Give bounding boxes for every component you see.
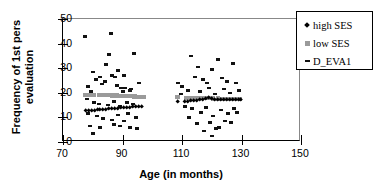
- x-axis-title: Age (in months): [62, 168, 300, 180]
- scatter-chart: Frequency of 1st pers evaluation 0102030…: [0, 0, 376, 194]
- data-point-d-eva1: [211, 115, 215, 118]
- data-point-d-eva1: [119, 87, 123, 90]
- data-point-d-eva1: [104, 63, 108, 66]
- data-point-d-eva1: [219, 109, 223, 112]
- data-point-d-eva1: [210, 135, 214, 138]
- data-point-d-eva1: [116, 114, 120, 117]
- data-point-d-eva1: [132, 52, 136, 55]
- data-point-d-eva1: [109, 32, 113, 35]
- y-axis-title-line1: Frequency of 1st pers: [10, 20, 22, 134]
- data-point-d-eva1: [94, 78, 98, 81]
- y-axis-tick-label: 30: [46, 62, 72, 72]
- y-axis-tick-label: 0: [46, 136, 72, 146]
- diamond-marker-icon: [301, 23, 313, 27]
- data-point-d-eva1: [118, 125, 122, 128]
- data-point-d-eva1: [186, 89, 190, 92]
- data-point-d-eva1: [125, 101, 129, 104]
- data-point-high-ses: [239, 98, 244, 103]
- data-point-d-eva1: [88, 125, 92, 128]
- plot-area: [62, 18, 300, 141]
- legend: high SES low SES D_EVA1: [296, 11, 373, 70]
- x-axis-tick: [242, 135, 243, 145]
- y-axis-tick-label: 40: [46, 38, 72, 48]
- data-point-d-eva1: [222, 88, 226, 91]
- y-axis-tick-label: 10: [46, 111, 72, 121]
- x-axis-tick: [301, 135, 302, 145]
- data-point-d-eva1: [220, 77, 224, 80]
- data-point-d-eva1: [98, 76, 102, 79]
- x-axis-tick-label: 150: [285, 148, 315, 158]
- data-point-d-eva1: [97, 103, 101, 106]
- data-point-d-eva1: [86, 85, 90, 88]
- data-point-d-eva1: [137, 82, 141, 85]
- data-point-d-eva1: [193, 76, 197, 79]
- data-point-d-eva1: [210, 68, 214, 71]
- data-point-d-eva1: [92, 101, 96, 104]
- dash-marker-icon: [301, 60, 313, 62]
- data-point-d-eva1: [128, 126, 132, 129]
- data-point-d-eva1: [228, 92, 232, 95]
- data-point-d-eva1: [85, 98, 89, 101]
- square-marker-icon: [301, 41, 313, 46]
- y-axis-title-line2: evaluation: [23, 50, 35, 104]
- data-point-d-eva1: [100, 83, 104, 86]
- data-point-d-eva1: [110, 119, 114, 122]
- data-point-d-eva1: [134, 116, 138, 119]
- legend-item-d-eva1: D_EVA1: [301, 52, 369, 70]
- x-axis-tick-label: 90: [107, 148, 137, 158]
- data-point-d-eva1: [189, 55, 193, 58]
- y-axis-title: Frequency of 1st pers evaluation: [10, 2, 36, 152]
- data-point-d-eva1: [204, 106, 208, 109]
- data-point-d-eva1: [135, 127, 139, 130]
- legend-item-low-ses: low SES: [301, 34, 369, 52]
- legend-label-low-ses: low SES: [313, 38, 349, 49]
- data-point-d-eva1: [217, 126, 221, 129]
- x-axis-tick: [123, 135, 124, 145]
- x-axis-tick-label: 130: [226, 148, 256, 158]
- legend-label-d-eva1: D_EVA1: [313, 56, 351, 67]
- data-point-d-eva1: [101, 117, 105, 120]
- y-axis-tick-label: 20: [46, 87, 72, 97]
- data-point-d-eva1: [199, 111, 203, 114]
- legend-label-high-ses: high SES: [313, 20, 352, 31]
- data-point-d-eva1: [198, 90, 202, 93]
- data-point-d-eva1: [113, 76, 117, 79]
- data-point-d-eva1: [187, 116, 191, 119]
- legend-item-high-ses: high SES: [301, 16, 369, 34]
- data-point-d-eva1: [231, 62, 235, 65]
- data-point-d-eva1: [213, 93, 217, 96]
- data-point-d-eva1: [91, 132, 95, 135]
- data-point-d-eva1: [229, 121, 233, 124]
- data-point-d-eva1: [223, 120, 227, 123]
- data-point-d-eva1: [129, 88, 133, 91]
- data-point-d-eva1: [176, 82, 180, 85]
- x-axis-tick-label: 110: [166, 148, 196, 158]
- data-point-d-eva1: [103, 80, 107, 83]
- data-point-d-eva1: [183, 105, 187, 108]
- data-point-d-eva1: [122, 120, 126, 123]
- data-point-d-eva1: [225, 80, 229, 83]
- data-point-d-eva1: [190, 107, 194, 110]
- data-point-d-eva1: [83, 35, 87, 38]
- data-point-d-eva1: [126, 112, 130, 115]
- data-point-d-eva1: [115, 84, 119, 87]
- data-point-d-eva1: [207, 87, 211, 90]
- data-point-high-ses: [139, 104, 144, 109]
- data-point-d-eva1: [122, 74, 126, 77]
- data-point-d-eva1: [208, 121, 212, 124]
- data-point-d-eva1: [112, 100, 116, 103]
- data-point-d-eva1: [123, 87, 127, 90]
- data-point-d-eva1: [107, 53, 111, 56]
- data-point-d-eva1: [216, 58, 220, 61]
- data-point-d-eva1: [235, 111, 239, 114]
- data-point-d-eva1: [196, 66, 200, 69]
- data-point-d-eva1: [205, 82, 209, 85]
- data-point-d-eva1: [116, 69, 120, 72]
- data-point-d-eva1: [226, 112, 230, 115]
- data-point-d-eva1: [180, 85, 184, 88]
- y-axis-tick-label: 50: [46, 13, 72, 23]
- data-point-low-ses: [141, 95, 145, 99]
- data-point-d-eva1: [91, 71, 95, 74]
- plot-points-layer: [63, 19, 299, 140]
- data-point-d-eva1: [121, 90, 125, 93]
